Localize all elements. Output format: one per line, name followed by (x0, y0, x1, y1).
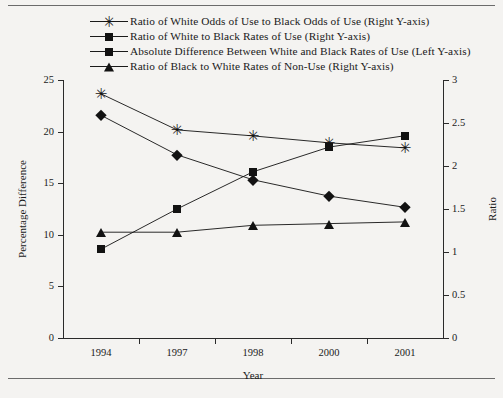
data-point-triangle[interactable] (172, 228, 182, 237)
star-marker-icon: ✳ (95, 87, 108, 100)
data-point-square[interactable] (173, 205, 181, 213)
triangle-marker-icon (172, 228, 182, 237)
data-point-triangle[interactable] (96, 228, 106, 237)
triangle-marker-icon (96, 228, 106, 237)
data-point-diamond[interactable] (249, 176, 257, 184)
square-marker-icon (97, 245, 105, 253)
data-point-star[interactable]: ✳ (171, 123, 184, 136)
triangle-marker-icon (248, 221, 258, 230)
star-marker-icon: ✳ (399, 141, 412, 154)
triangle-marker-icon (324, 220, 334, 229)
series-lines (0, 0, 503, 398)
data-point-diamond[interactable] (325, 192, 333, 200)
diamond-marker-icon (400, 202, 411, 213)
data-point-triangle[interactable] (400, 218, 410, 227)
data-point-square[interactable] (249, 168, 257, 176)
data-point-diamond[interactable] (97, 112, 105, 120)
diamond-marker-icon (96, 110, 107, 121)
data-point-triangle[interactable] (324, 220, 334, 229)
data-point-star[interactable]: ✳ (95, 87, 108, 100)
plot-area: 051015202500.511.522.5319941997199820002… (0, 0, 503, 398)
diamond-marker-icon (248, 174, 259, 185)
data-point-diamond[interactable] (401, 204, 409, 212)
data-point-diamond[interactable] (173, 151, 181, 159)
data-point-star[interactable]: ✳ (247, 129, 260, 142)
square-marker-icon (173, 205, 181, 213)
figure: ✳Ratio of White Odds of Use to Black Odd… (0, 0, 503, 398)
data-point-triangle[interactable] (248, 221, 258, 230)
triangle-marker-icon (400, 218, 410, 227)
data-point-square[interactable] (97, 245, 105, 253)
data-point-square[interactable] (325, 143, 333, 151)
square-marker-icon (249, 168, 257, 176)
star-marker-icon: ✳ (247, 129, 260, 142)
data-point-star[interactable]: ✳ (399, 141, 412, 154)
data-point-square[interactable] (401, 132, 409, 140)
star-marker-icon: ✳ (171, 123, 184, 136)
square-marker-icon (401, 132, 409, 140)
square-marker-icon (325, 143, 333, 151)
diamond-marker-icon (324, 191, 335, 202)
diamond-marker-icon (172, 150, 183, 161)
